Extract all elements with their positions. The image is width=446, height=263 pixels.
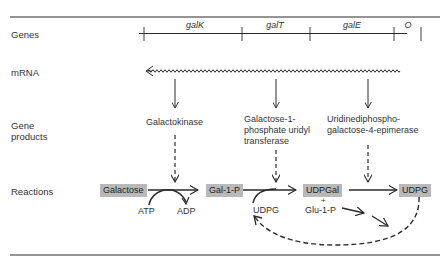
glu1p-arrow-2 (372, 216, 388, 226)
product-epimerase: Uridinediphospho- galactose-4-epimerase (327, 114, 419, 136)
udpg-recycle-dashed (255, 197, 419, 245)
atp-adp-curve (149, 190, 186, 205)
product-udpg: UDPG (399, 184, 431, 197)
product-galactokinase: Galactokinase (146, 117, 203, 128)
gene-operator: O (402, 20, 414, 30)
product-transferase: Galactose-1- phosphate uridyl transferas… (244, 114, 310, 147)
substrate-gal-1-p: Gal-1-P (206, 184, 243, 197)
cofactor-atp: ATP (138, 206, 155, 216)
cofactor-udpg: UDPG (253, 205, 279, 215)
cofactor-adp: ADP (177, 206, 196, 216)
udpg-curve (253, 189, 276, 203)
substrate-galactose: Galactose (100, 184, 147, 197)
gene-galk: galK (180, 20, 210, 30)
mrna-wavy-line (146, 66, 400, 76)
glu1p-arrow (342, 208, 364, 213)
cofactor-glu-1-p: Glu-1-P (305, 205, 336, 215)
gene-gale: galE (337, 20, 367, 30)
gene-galt: galT (260, 20, 290, 30)
plus-sign: + (321, 196, 326, 205)
